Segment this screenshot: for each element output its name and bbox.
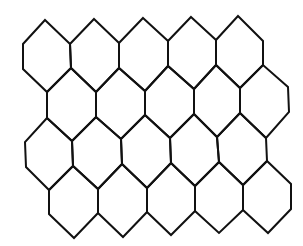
hexagon-cell-r2-c0 [25,118,73,190]
hexagon-cells-group [23,16,291,238]
hexagon-cell-r3-c3 [195,162,243,233]
hexagon-cell-r0-c3 [168,17,216,89]
hexagon-cell-r2-c4 [217,113,267,185]
hexagon-cell-r3-c0 [49,166,98,238]
hexagon-cell-r0-c1 [70,19,119,92]
hexagon-cell-r0-c2 [119,18,168,91]
hexagonal-grid-diagram [0,0,303,246]
hexagon-cell-r2-c1 [72,117,122,189]
hexagon-cell-r3-c4 [243,161,291,233]
hexagon-cell-r1-c4 [240,65,289,138]
hexagon-cell-r0-c4 [216,16,263,88]
hexagon-cell-r3-c1 [98,164,147,237]
hexagon-cell-r0-c0 [23,20,71,92]
hexagon-cell-r3-c2 [147,163,195,235]
hexagon-cell-r1-c0 [47,68,96,141]
hexagon-cell-r1-c3 [194,65,240,137]
hexagon-cell-r2-c2 [121,115,171,188]
hexagon-cell-r2-c3 [170,114,219,186]
hexagon-cell-r1-c1 [96,68,145,139]
hexagon-cell-r1-c2 [145,66,194,138]
